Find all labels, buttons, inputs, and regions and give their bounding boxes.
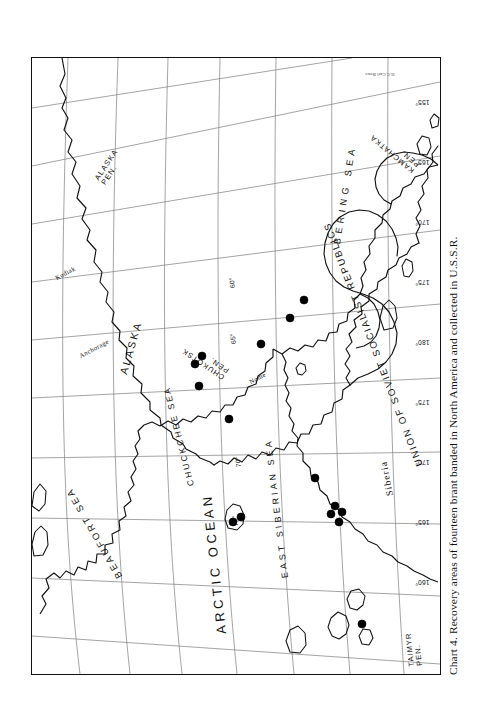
figure-page: ARCTIC OCEAN BEAUFORT SEA CHUCKCHEE SEA … (0, 0, 491, 701)
map-graphics (32, 58, 440, 674)
map-frame: ARCTIC OCEAN BEAUFORT SEA CHUCKCHEE SEA … (31, 57, 441, 675)
figure-caption: Chart 4. Recovery areas of fourteen bran… (447, 27, 459, 675)
rotated-figure-block: ARCTIC OCEAN BEAUFORT SEA CHUCKCHEE SEA … (31, 27, 461, 675)
